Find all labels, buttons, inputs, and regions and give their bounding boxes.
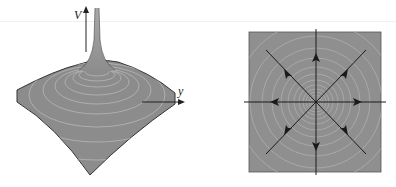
surface-body	[17, 60, 175, 175]
figure-canvas: V y	[0, 0, 396, 187]
v-axis-label: V	[74, 8, 83, 22]
y-axis-label: y	[177, 84, 184, 98]
vector-field-plot	[236, 22, 396, 182]
potential-surface-plot: V y	[0, 6, 197, 175]
v-axis: V	[74, 6, 89, 52]
v-axis-arrowhead-icon	[83, 6, 89, 13]
y-axis-arrowhead-icon	[178, 99, 185, 105]
